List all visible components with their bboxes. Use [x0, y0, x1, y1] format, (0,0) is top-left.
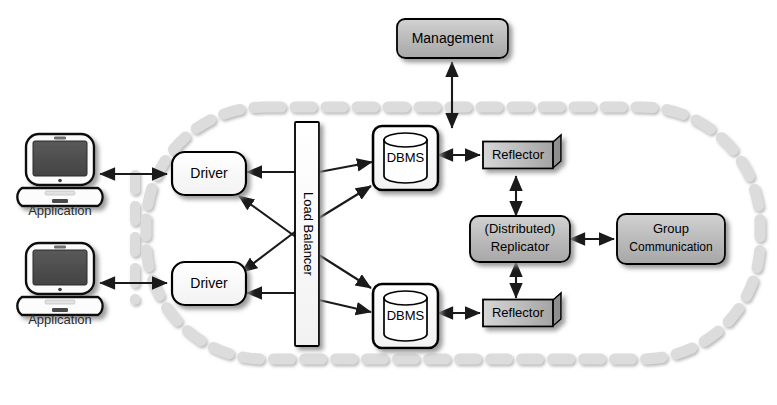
application-bottom-label: Application: [28, 312, 92, 327]
node-driver-top[interactable]: Driver: [172, 152, 246, 195]
edge-lb-dbms-bottom-b: [319, 300, 371, 312]
node-management[interactable]: Management: [397, 19, 508, 58]
reflector-bottom-label: Reflector: [492, 305, 545, 320]
laptop-bottom-icon[interactable]: [17, 243, 102, 315]
edge-lb-driver-bottom-diagonal: [242, 228, 300, 272]
load-balancer-label: Load Balancer: [301, 192, 316, 277]
management-label: Management: [412, 30, 494, 46]
reflector-top-label: Reflector: [492, 147, 545, 162]
driver-bottom-label: Driver: [190, 275, 228, 291]
node-dbms-bottom[interactable]: DBMS: [373, 284, 438, 348]
node-dbms-top[interactable]: DBMS: [373, 126, 438, 190]
group-communication-label-line1: Group: [653, 221, 689, 236]
driver-top-label: Driver: [190, 165, 228, 181]
edge-lb-dbms-bottom-a: [319, 255, 371, 288]
node-application-bottom[interactable]: Application: [17, 243, 102, 327]
replicator-label-line1: (Distributed): [485, 221, 556, 236]
group-communication-label-line2: Communication: [629, 240, 712, 254]
edge-lb-dbms-top-a: [319, 162, 372, 172]
diagram-canvas: DBMS top --> Driver top --> Driver botto…: [0, 0, 777, 405]
node-reflector-top[interactable]: Reflector: [483, 135, 561, 169]
node-application-top[interactable]: Application: [17, 134, 102, 218]
replicator-label-line2: Replicator: [491, 239, 550, 254]
node-load-balancer[interactable]: Load Balancer: [295, 122, 319, 346]
dbms-top-label: DBMS: [387, 150, 425, 165]
application-top-label: Application: [28, 203, 92, 218]
dbms-bottom-label: DBMS: [387, 308, 425, 323]
node-group-communication[interactable]: Group Communication: [617, 214, 725, 264]
edge-lb-driver-top-diagonal: [239, 196, 300, 240]
node-driver-bottom[interactable]: Driver: [172, 262, 246, 305]
node-replicator[interactable]: (Distributed) Replicator: [470, 216, 570, 262]
node-reflector-bottom[interactable]: Reflector: [483, 293, 561, 327]
architecture-diagram: DBMS top --> Driver top --> Driver botto…: [0, 0, 777, 405]
edge-lb-dbms-top-b: [319, 186, 371, 218]
laptop-top-icon[interactable]: [17, 134, 102, 206]
